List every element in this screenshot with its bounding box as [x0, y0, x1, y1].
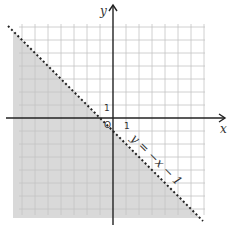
x-tick-1: 1	[124, 121, 130, 131]
origin-label: O	[104, 120, 111, 130]
y-axis-label: y	[99, 4, 107, 18]
x-axis-label: x	[220, 122, 227, 136]
coordinate-plane: x y 1 O 1 y = −x − 1	[0, 0, 229, 225]
y-tick-1: 1	[104, 103, 110, 113]
